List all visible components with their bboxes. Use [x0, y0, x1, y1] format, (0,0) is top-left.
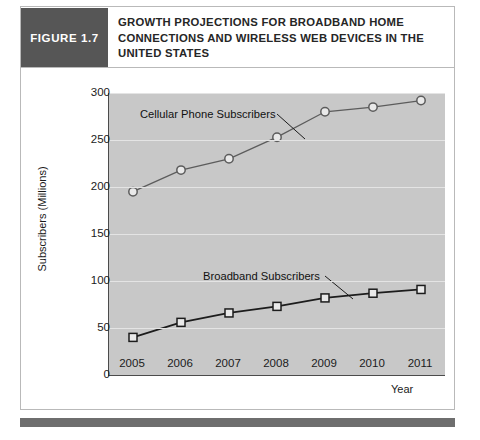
- x-tick-label: 2007: [205, 357, 251, 369]
- figure-tag-label: FIGURE 1.7: [30, 32, 99, 44]
- x-tick-label: 2008: [253, 357, 299, 369]
- data-point-marker: [417, 96, 425, 104]
- gridline: [109, 140, 445, 141]
- chart-area: Subscribers (Millions) 05010015020025030…: [21, 68, 454, 410]
- footer-bar: [20, 418, 455, 427]
- data-point-marker: [177, 318, 185, 326]
- x-axis-title: Year: [391, 383, 413, 395]
- data-point-marker: [225, 309, 233, 317]
- data-point-marker: [417, 285, 425, 293]
- figure-card: FIGURE 1.7 GROWTH PROJECTIONS FOR BROADB…: [20, 6, 455, 410]
- y-axis-title: Subscribers (Millions): [36, 119, 48, 319]
- data-point-marker: [273, 302, 281, 310]
- y-tick-label: 250: [70, 133, 110, 145]
- figure-header: FIGURE 1.7 GROWTH PROJECTIONS FOR BROADB…: [21, 7, 454, 67]
- series-label-broadband: Broadband Subscribers: [203, 270, 320, 282]
- y-tick-label: 150: [70, 227, 110, 239]
- data-point-marker: [321, 108, 329, 116]
- figure-title: GROWTH PROJECTIONS FOR BROADBAND HOME CO…: [118, 15, 448, 62]
- plot-area: [108, 93, 445, 376]
- series-label-cellular: Cellular Phone Subscribers: [140, 108, 276, 120]
- data-point-marker: [129, 188, 137, 196]
- data-point-marker: [129, 333, 137, 341]
- x-tick-label: 2006: [157, 357, 203, 369]
- data-point-marker: [321, 294, 329, 302]
- x-tick-label: 2011: [397, 357, 443, 369]
- gridline: [109, 234, 445, 235]
- gridline: [109, 93, 445, 94]
- y-tick-label: 300: [70, 86, 110, 98]
- gridline: [109, 328, 445, 329]
- data-point-marker: [225, 155, 233, 163]
- data-point-marker: [177, 166, 185, 174]
- x-tick-label: 2009: [301, 357, 347, 369]
- y-tick-label: 0: [70, 368, 110, 380]
- series-line: [133, 289, 421, 337]
- data-point-marker: [369, 289, 377, 297]
- y-tick-label: 200: [70, 180, 110, 192]
- y-tick-label: 50: [70, 321, 110, 333]
- x-tick-label: 2010: [349, 357, 395, 369]
- figure-tag: FIGURE 1.7: [21, 8, 108, 67]
- x-tick-label: 2005: [109, 357, 155, 369]
- gridline: [109, 187, 445, 188]
- y-tick-label: 100: [70, 274, 110, 286]
- data-point-marker: [369, 103, 377, 111]
